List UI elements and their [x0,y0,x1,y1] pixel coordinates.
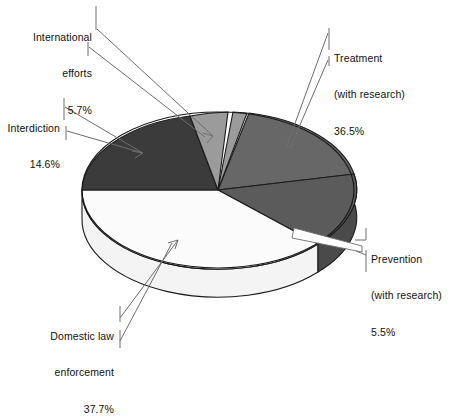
label-prevention: Prevention (with research) 5.5% [371,228,450,363]
label-prevention-line1: Prevention [371,253,450,265]
label-domestic-law-enforcement: Domestic law enforcement 37.7% [10,305,114,417]
label-interdiction: Interdiction 14.6% [0,97,60,195]
label-treatment-line1: Treatment [334,52,446,64]
label-interdiction-value: 14.6% [0,158,60,170]
leader-international-efforts-line1 [97,29,213,136]
label-international-efforts-line1: International [4,31,92,43]
label-treatment-value: 36.5% [334,125,446,137]
label-prevention-line2: (with research) [371,289,450,301]
label-treatment: Treatment (with research) 36.5% [334,27,446,162]
label-interdiction-line1: Interdiction [0,122,60,134]
label-domestic-line2: enforcement [10,366,114,378]
label-domestic-line1: Domestic law [10,330,114,342]
label-prevention-value: 5.5% [371,326,450,338]
label-treatment-line2: (with research) [334,88,446,100]
label-international-efforts-line2: efforts [4,67,92,79]
label-domestic-value: 37.7% [10,403,114,415]
